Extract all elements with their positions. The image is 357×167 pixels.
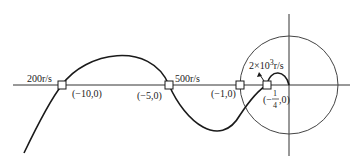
point-label-neg5: (−5,0) bbox=[137, 90, 162, 102]
marker-neg5 bbox=[165, 81, 173, 89]
marker-neg10 bbox=[58, 81, 66, 89]
marker-neg-quarter bbox=[263, 81, 271, 89]
freq-label-2e3: 2×103r/s bbox=[249, 58, 284, 71]
point-label-neg-quarter: (− bbox=[263, 94, 272, 106]
marker-neg1 bbox=[236, 81, 244, 89]
freq-label-500: 500r/s bbox=[175, 73, 200, 84]
fraction-numerator: 1 bbox=[273, 89, 277, 98]
point-label-neg1: (−1,0) bbox=[211, 88, 236, 100]
point-label-neg10: (−10,0) bbox=[72, 88, 102, 100]
freq-label-200: 200r/s bbox=[27, 73, 52, 84]
fraction-denominator: 4 bbox=[273, 101, 277, 110]
nyquist-diagram: 200r/s 500r/s 2×103r/s (−10,0) (−5,0) (−… bbox=[0, 0, 357, 167]
point-label-close: ,0) bbox=[279, 94, 290, 106]
